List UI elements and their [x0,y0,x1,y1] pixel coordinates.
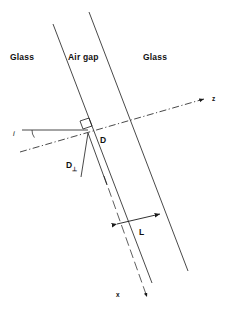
diagram-canvas [0,0,225,311]
z-axis-line [20,99,204,152]
glass-right-label: Glass [143,53,167,62]
glass-left-label: Glass [10,53,34,62]
l-dimension-line [117,214,160,224]
angle-i-arc [32,130,34,138]
optics-ray-diagram: Glass Air gap Glass D D⊥ L z x i [0,0,225,311]
gap-boundary-left-line [53,24,152,283]
z-axis-label: z [212,96,215,103]
right-angle-marker [80,118,92,129]
x-axis-label: x [116,292,120,299]
d-perpendicular-label: D⊥ [66,161,77,172]
d-perpendicular-segment [81,133,88,177]
l-dimension-label: L [139,228,144,237]
angle-of-incidence-label: i [13,130,15,138]
air-gap-label: Air gap [68,53,99,62]
d-dimension-label: D [100,136,106,145]
d-perpendicular-subscript: ⊥ [72,166,77,172]
